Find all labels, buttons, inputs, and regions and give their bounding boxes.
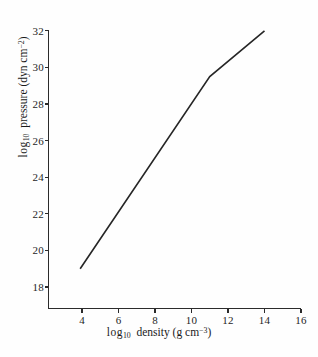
x-tick-label: 4 (79, 315, 85, 326)
y-tick-label: 20 (24, 245, 44, 256)
plot-area: 1820222426283032 46810121416 (0, 0, 318, 357)
x-tick-label: 10 (186, 315, 197, 326)
y-tick-label: 22 (24, 208, 44, 219)
y-axis-title: log10 pressure (dyn cm−2) (17, 36, 29, 157)
x-tick-label: 12 (222, 315, 233, 326)
x-axis-title-text: log10 density (g cm−3) (107, 326, 212, 338)
x-axis-title: log10 density (g cm−3) (0, 326, 318, 340)
figure-panel: 1820222426283032 46810121416 log10 densi… (0, 0, 318, 357)
chart-svg (0, 0, 318, 357)
x-tick-label: 6 (116, 315, 122, 326)
y-tick-marks (45, 31, 49, 287)
x-tick-label: 14 (259, 315, 270, 326)
x-tick-label: 8 (152, 315, 158, 326)
x-tick-label: 16 (295, 315, 306, 326)
y-axis-title-container: log10 pressure (dyn cm−2) (13, 0, 31, 197)
x-tick-marks (82, 309, 301, 313)
data-series-line (80, 31, 264, 269)
y-tick-label: 18 (24, 282, 44, 293)
